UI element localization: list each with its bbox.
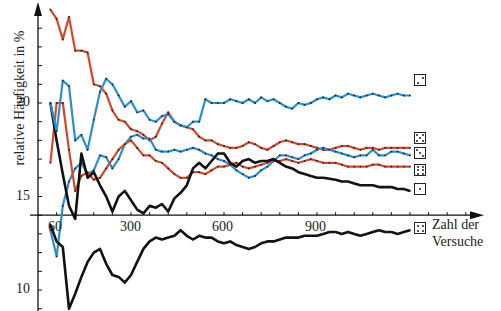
die-face-6-icon — [414, 164, 426, 176]
series-line-face-2 — [50, 79, 410, 150]
x-tick-300: 300 — [120, 219, 141, 235]
x-axis-label: Zahl der Versuche — [432, 216, 483, 250]
data-lines — [50, 9, 411, 310]
x-tick-600: 600 — [212, 219, 233, 235]
series-line-face-1 — [50, 103, 410, 219]
x-tick-60: 60 — [48, 219, 62, 235]
y-tick-20: 20 — [16, 94, 30, 110]
x-tick-900: 900 — [305, 219, 326, 235]
die-face-2-icon — [414, 74, 426, 86]
die-face-5-icon — [414, 132, 426, 144]
y-tick-15: 15 — [16, 188, 30, 204]
x-axis-label-line2: Versuche — [432, 233, 483, 250]
die-face-3-icon — [414, 147, 426, 159]
die-face-4-icon — [414, 222, 426, 234]
series-line-face-5 — [50, 10, 410, 150]
series-line-face-4 — [50, 225, 410, 309]
y-tick-10: 10 — [16, 281, 30, 297]
die-face-1-icon — [414, 183, 426, 195]
x-axis-label-line1: Zahl der — [432, 216, 483, 233]
